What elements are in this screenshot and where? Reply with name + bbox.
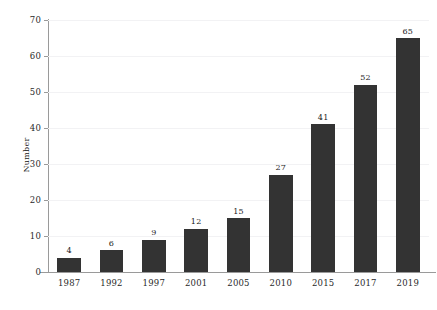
bar-value-label: 4 (67, 247, 72, 255)
bar-rect[interactable] (354, 85, 378, 272)
x-axis-tick-label: 2017 (354, 278, 376, 288)
bar-group[interactable]: 65 (396, 28, 420, 273)
y-axis-tick-label: 0 (35, 267, 44, 277)
x-axis-tick-label: 2015 (312, 278, 334, 288)
bar-rect[interactable] (311, 124, 335, 272)
bar-rect[interactable] (184, 229, 208, 272)
y-axis-tick: 60 (30, 51, 48, 61)
bar-value-label: 27 (276, 164, 287, 172)
x-axis-ticks: 198719921997200120052010201520172019 (48, 278, 429, 298)
bar-group[interactable]: 27 (269, 164, 293, 272)
y-axis-tick: 70 (30, 15, 48, 25)
y-axis-tick: 30 (30, 159, 48, 169)
bar-rect[interactable] (100, 250, 124, 272)
bar-rect[interactable] (57, 258, 81, 272)
bar-rect[interactable] (142, 240, 166, 272)
y-axis-tick-label: 70 (30, 15, 44, 25)
bar-group[interactable]: 4 (57, 247, 81, 272)
bar-group[interactable]: 52 (354, 74, 378, 272)
y-axis-tick-label: 40 (30, 123, 44, 133)
bar-group[interactable]: 41 (311, 114, 335, 272)
x-axis-tick-label: 1997 (143, 278, 165, 288)
x-axis-tick-label: 1987 (58, 278, 80, 288)
bar-value-label: 65 (403, 28, 414, 36)
x-axis-tick-label: 2005 (227, 278, 249, 288)
y-axis-tick: 20 (30, 195, 48, 205)
y-axis-tick-label: 10 (30, 231, 44, 241)
bar-rect[interactable] (227, 218, 251, 272)
bars: 469121527415265 (48, 20, 429, 272)
x-axis-tick-label: 2001 (185, 278, 207, 288)
y-axis-tick: 40 (30, 123, 48, 133)
bar-value-label: 41 (318, 114, 329, 122)
bar-chart: Number 010203040506070 469121527415265 1… (0, 0, 437, 310)
bar-value-label: 52 (360, 74, 371, 82)
bar-value-label: 15 (233, 208, 244, 216)
x-axis-line (40, 272, 436, 273)
bar-value-label: 9 (151, 229, 156, 237)
bar-group[interactable]: 6 (100, 240, 124, 272)
y-axis-tick-label: 30 (30, 159, 44, 169)
x-axis-tick-label: 2010 (270, 278, 292, 288)
plot-area: 010203040506070 469121527415265 (48, 20, 429, 272)
y-axis-tick-label: 20 (30, 195, 44, 205)
y-axis-tick-label: 50 (30, 87, 44, 97)
bar-group[interactable]: 15 (227, 208, 251, 273)
y-axis-tick: 0 (35, 267, 48, 277)
y-axis-tick: 50 (30, 87, 48, 97)
bar-rect[interactable] (269, 175, 293, 272)
x-axis-tick-label: 1992 (100, 278, 122, 288)
x-axis-tick-label: 2019 (397, 278, 419, 288)
bar-value-label: 12 (191, 218, 202, 226)
y-axis-tick-label: 60 (30, 51, 44, 61)
bar-rect[interactable] (396, 38, 420, 272)
bar-value-label: 6 (109, 240, 114, 248)
bar-group[interactable]: 9 (142, 229, 166, 272)
bar-group[interactable]: 12 (184, 218, 208, 272)
y-axis-tick: 10 (30, 231, 48, 241)
